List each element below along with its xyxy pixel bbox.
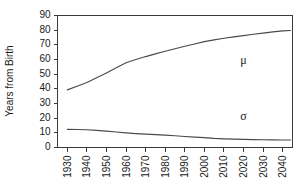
x-tick-label-1940: 1940 [81, 155, 92, 178]
y-axis-ticks [54, 16, 58, 148]
series-annotation-sigma: σ [240, 109, 247, 123]
plot-frame [58, 16, 293, 148]
chart-screenshot: 0102030405060708090 19301940195019601970… [0, 0, 307, 193]
x-tick-label-1970: 1970 [140, 155, 151, 178]
y-tick-label-20: 20 [39, 112, 51, 123]
x-tick-label-1980: 1980 [160, 155, 171, 178]
data-series-group [67, 30, 290, 140]
series-annotations: μσ [240, 53, 247, 123]
x-tick-label-2000: 2000 [199, 155, 210, 178]
x-tick-label-1950: 1950 [101, 155, 112, 178]
line-chart: 0102030405060708090 19301940195019601970… [0, 0, 307, 193]
y-tick-label-60: 60 [39, 53, 51, 64]
x-tick-label-2010: 2010 [218, 155, 229, 178]
y-tick-label-30: 30 [39, 97, 51, 108]
y-tick-label-50: 50 [39, 68, 51, 79]
x-tick-label-1990: 1990 [179, 155, 190, 178]
x-tick-label-1960: 1960 [121, 155, 132, 178]
x-tick-label-2040: 2040 [277, 155, 288, 178]
y-axis-tick-labels: 0102030405060708090 [39, 9, 51, 152]
series-line-mu [67, 30, 290, 89]
series-annotation-mu: μ [240, 53, 246, 67]
x-tick-label-2030: 2030 [258, 155, 269, 178]
y-tick-label-0: 0 [45, 141, 51, 152]
y-tick-label-70: 70 [39, 38, 51, 49]
y-tick-label-90: 90 [39, 9, 51, 20]
y-tick-label-80: 80 [39, 24, 51, 35]
y-tick-label-10: 10 [39, 126, 51, 137]
plot-frame-border [58, 16, 293, 148]
series-line-sigma [67, 129, 290, 140]
y-axis-title-group: Years from Birth [4, 45, 15, 116]
y-axis-title: Years from Birth [4, 45, 15, 116]
x-axis-tick-labels: 1930194019501960197019801990200020102020… [62, 155, 288, 178]
x-axis-ticks [67, 148, 282, 152]
y-tick-label-40: 40 [39, 82, 51, 93]
x-tick-label-2020: 2020 [238, 155, 249, 178]
x-tick-label-1930: 1930 [62, 155, 73, 178]
